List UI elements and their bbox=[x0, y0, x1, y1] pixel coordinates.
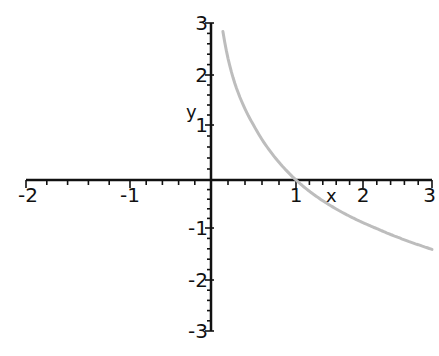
y-tick-label: 1 bbox=[195, 113, 208, 137]
y-tick-label: 3 bbox=[195, 11, 208, 35]
x-tick-label: 1 bbox=[290, 183, 303, 207]
y-tick-label: -2 bbox=[188, 268, 208, 292]
function-curve bbox=[223, 32, 432, 250]
x-tick-label: -1 bbox=[120, 183, 140, 207]
axis-ticks bbox=[26, 23, 432, 331]
tick-labels: -2-1123321-1-2-3 bbox=[18, 11, 436, 343]
y-axis-label: y bbox=[186, 101, 197, 122]
x-axis-label: x bbox=[326, 185, 337, 206]
x-tick-label: 3 bbox=[423, 183, 436, 207]
y-tick-label: 2 bbox=[195, 63, 208, 87]
y-tick-label: -1 bbox=[188, 216, 208, 240]
x-tick-label: 2 bbox=[357, 183, 370, 207]
x-tick-label: -2 bbox=[18, 183, 38, 207]
y-tick-label: -3 bbox=[188, 319, 208, 343]
function-plot: -2-1123321-1-2-3 x y bbox=[0, 0, 439, 356]
